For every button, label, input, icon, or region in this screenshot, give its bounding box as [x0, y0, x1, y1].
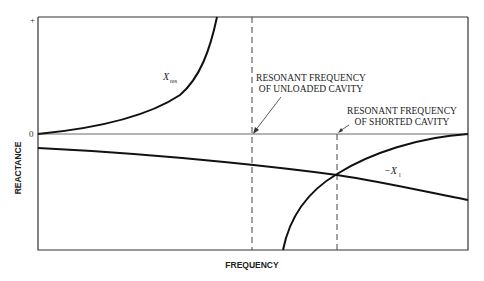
x-res-subscript: res [170, 78, 178, 84]
unloaded-arrow-line [255, 97, 281, 131]
minus-x-l-subscript: l [399, 172, 401, 178]
y-axis-label: REACTANCE [13, 141, 23, 194]
unloaded-annotation-line2: OF UNLOADED CAVITY [259, 84, 363, 94]
unloaded-arrow-head [253, 127, 259, 134]
x-res-curve [38, 17, 217, 134]
shorted-annotation-line1: RESONANT FREQUENCY [347, 106, 457, 116]
y-tick-zero: 0 [29, 129, 34, 139]
y-tick-plus: + [30, 15, 35, 25]
plot-frame [38, 17, 468, 250]
shorted-arrow-head [338, 128, 343, 133]
x-res-label: X [162, 71, 170, 82]
minus-x-l-curve [38, 148, 468, 200]
shorted-annotation-line2: OF SHORTED CAVITY [355, 117, 450, 127]
reactance-diagram: + 0 REACTANCE FREQUENCY X res −X l RESON… [0, 0, 484, 281]
minus-x-l-label: −X [384, 165, 398, 176]
x-res-second-branch-curve [283, 134, 468, 250]
x-axis-label: FREQUENCY [225, 260, 279, 270]
unloaded-annotation-line1: RESONANT FREQUENCY [256, 73, 366, 83]
